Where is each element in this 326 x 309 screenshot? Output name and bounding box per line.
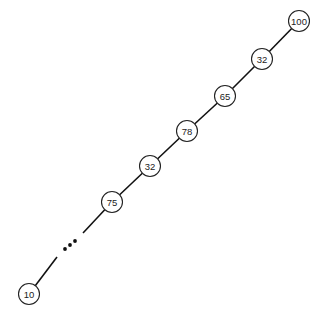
node-label: 32 (145, 161, 156, 172)
node-label: 10 (24, 289, 35, 300)
ellipsis-dot (68, 243, 72, 247)
tree-node-100: 100 (289, 11, 310, 32)
node-label: 32 (257, 54, 268, 65)
tree-node-65: 65 (215, 86, 236, 107)
tree-node-75: 75 (102, 192, 123, 213)
ellipsis-dots (63, 239, 77, 251)
tree-node-78: 78 (177, 121, 198, 142)
tree-node-32-top: 32 (252, 49, 273, 70)
ellipsis-dot (73, 239, 77, 243)
node-label: 75 (107, 197, 118, 208)
tree-node-32-mid: 32 (140, 156, 161, 177)
node-label: 78 (182, 126, 193, 137)
tree-node-10: 10 (19, 284, 40, 305)
node-label: 65 (220, 91, 231, 102)
node-label: 100 (291, 16, 307, 27)
tree-diagram: 100 32 65 78 32 75 10 (0, 0, 326, 309)
nodes: 100 32 65 78 32 75 10 (19, 11, 310, 305)
ellipsis-dot (63, 247, 67, 251)
